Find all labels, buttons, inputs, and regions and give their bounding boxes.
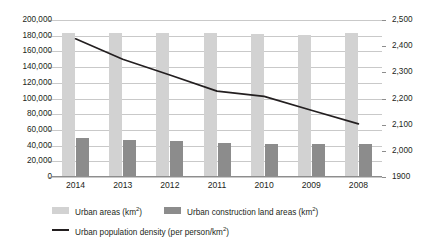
legend-row-bottom: Urban population density (per person/km2… xyxy=(52,223,432,238)
axis-baseline xyxy=(52,176,382,177)
left-axis-tick-100000: 100,000 xyxy=(4,95,52,103)
legend-item-urban-areas: Urban areas (km2) xyxy=(52,205,142,217)
x-axis-label-2008: 2008 xyxy=(338,181,378,190)
right-axis-tick-mark xyxy=(382,99,386,100)
left-axis-tick-60000: 60,000 xyxy=(4,126,52,134)
plot-area xyxy=(52,20,382,177)
legend-item-construction-land: Urban construction land areas (km2) xyxy=(164,205,318,217)
right-axis-tick-2400: 2,400 xyxy=(392,42,438,50)
x-axis-label-2011: 2011 xyxy=(197,181,237,190)
x-axis-label-2014: 2014 xyxy=(56,181,96,190)
legend-row-top: Urban areas (km2) Urban construction lan… xyxy=(52,203,432,218)
line-path-population-density xyxy=(76,39,359,124)
gridline xyxy=(52,177,382,178)
left-axis-tick-160000: 160,000 xyxy=(4,47,52,55)
right-axis-tick-mark xyxy=(382,125,386,126)
right-axis-tick-mark xyxy=(382,20,386,21)
x-axis-label-2012: 2012 xyxy=(150,181,190,190)
x-axis-label-2010: 2010 xyxy=(244,181,284,190)
right-axis-tick-mark xyxy=(382,177,386,178)
right-axis-tick-mark xyxy=(382,151,386,152)
left-axis-tick-200000: 200,000 xyxy=(4,16,52,24)
left-axis-tick-140000: 140,000 xyxy=(4,63,52,71)
legend-swatch-construction-land xyxy=(164,207,181,214)
right-axis-tick-mark xyxy=(382,72,386,73)
right-axis-tick-2500: 2,500 xyxy=(392,16,438,24)
x-axis-label-2013: 2013 xyxy=(103,181,143,190)
x-axis-label-2009: 2009 xyxy=(291,181,331,190)
right-axis-tick-2300: 2,300 xyxy=(392,68,438,76)
right-axis-tick-2000: 2,000 xyxy=(392,147,438,155)
legend-swatch-urban-areas xyxy=(52,207,69,214)
population-density-line xyxy=(52,20,382,177)
legend-label-construction-land: Urban construction land areas (km2) xyxy=(187,205,318,217)
chart-container: 020,00040,00060,00080,000100,000120,0001… xyxy=(0,0,438,245)
left-axis-tick-120000: 120,000 xyxy=(4,79,52,87)
legend-label-urban-areas: Urban areas (km2) xyxy=(75,205,142,217)
right-axis-tick-2100: 2,100 xyxy=(392,121,438,129)
right-axis-tick-2200: 2,200 xyxy=(392,95,438,103)
left-axis-tick-180000: 180,000 xyxy=(4,32,52,40)
legend-item-population-density: Urban population density (per person/km2… xyxy=(52,225,229,237)
legend-label-population-density: Urban population density (per person/km2… xyxy=(75,225,229,237)
right-axis-tick-mark xyxy=(382,46,386,47)
legend-swatch-population-density xyxy=(52,229,69,231)
chart-legend: Urban areas (km2) Urban construction lan… xyxy=(52,203,432,238)
left-axis-tick-0: 0 xyxy=(4,173,52,181)
left-axis-tick-20000: 20,000 xyxy=(4,157,52,165)
left-axis-tick-80000: 80,000 xyxy=(4,110,52,118)
right-axis-tick-1900: 1900 xyxy=(392,173,438,181)
left-axis-tick-40000: 40,000 xyxy=(4,142,52,150)
